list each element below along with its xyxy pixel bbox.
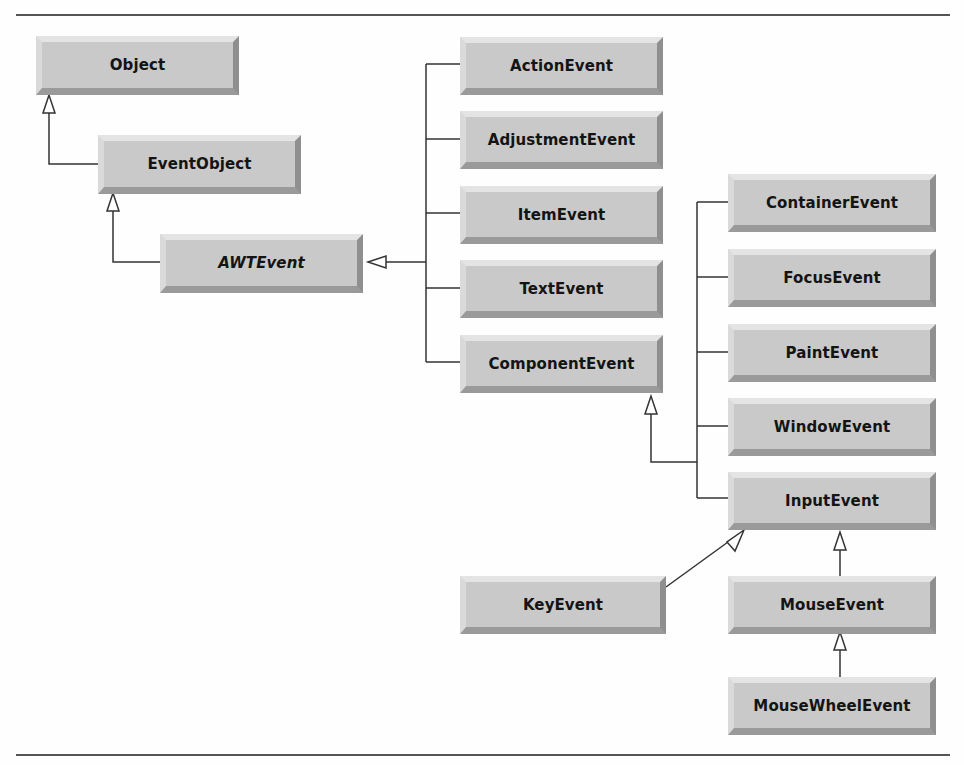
class-label: MouseWheelEvent: [753, 697, 910, 715]
class-label: ItemEvent: [518, 206, 606, 224]
class-mousewheelevent: MouseWheelEvent: [728, 677, 936, 735]
class-label: AdjustmentEvent: [488, 131, 635, 149]
class-containerevent: ContainerEvent: [728, 174, 936, 232]
class-label: EventObject: [147, 155, 251, 173]
class-label: ComponentEvent: [488, 355, 634, 373]
arrowhead-object: [43, 95, 55, 113]
class-paintevent: PaintEvent: [728, 324, 936, 382]
class-adjustmentevent: AdjustmentEvent: [460, 111, 663, 169]
class-windowevent: WindowEvent: [728, 398, 936, 456]
class-label: PaintEvent: [786, 344, 879, 362]
class-label: FocusEvent: [783, 269, 881, 287]
class-inputevent: InputEvent: [728, 472, 936, 530]
class-label: WindowEvent: [774, 418, 890, 436]
class-label: Object: [110, 56, 165, 74]
class-itemevent: ItemEvent: [460, 186, 663, 244]
class-focusevent: FocusEvent: [728, 249, 936, 307]
class-label: TextEvent: [519, 280, 603, 298]
class-label: KeyEvent: [523, 596, 603, 614]
class-label: ContainerEvent: [766, 194, 898, 212]
diagram-canvas: Object EventObject AWTEvent ActionEvent …: [0, 0, 964, 765]
class-textevent: TextEvent: [460, 260, 663, 318]
class-eventobject: EventObject: [98, 135, 301, 194]
class-keyevent: KeyEvent: [460, 576, 666, 634]
class-label: AWTEvent: [218, 254, 304, 272]
class-label: InputEvent: [785, 492, 879, 510]
class-label: MouseEvent: [780, 596, 884, 614]
class-actionevent: ActionEvent: [460, 37, 663, 95]
class-mouseevent: MouseEvent: [728, 576, 936, 634]
class-label: ActionEvent: [510, 57, 613, 75]
class-object: Object: [36, 36, 239, 95]
class-componentevent: ComponentEvent: [460, 335, 663, 393]
class-awtevent: AWTEvent: [160, 234, 363, 293]
